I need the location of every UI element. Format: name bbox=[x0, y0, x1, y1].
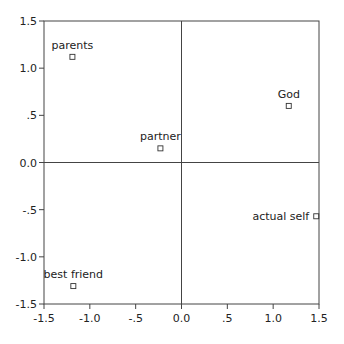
y-tick-label: 0.0 bbox=[20, 157, 38, 170]
point-label: God bbox=[278, 88, 300, 101]
data-point: best friend bbox=[44, 268, 103, 289]
square-marker-icon bbox=[286, 103, 291, 108]
x-axis: -1.5-1.0-.50.0.51.01.5 bbox=[33, 304, 327, 325]
y-tick-label: -1.5 bbox=[16, 298, 37, 311]
x-tick-label: 0.0 bbox=[173, 312, 191, 325]
x-tick-label: -1.5 bbox=[33, 312, 54, 325]
point-label: parents bbox=[52, 39, 94, 52]
point-label: actual self bbox=[252, 210, 310, 223]
y-tick-label: .5 bbox=[27, 109, 38, 122]
scatter-chart: -1.5-1.0-.50.0.51.01.5 1.51.0.50.0-.5-1.… bbox=[0, 0, 344, 344]
data-point: parents bbox=[52, 39, 94, 60]
point-label: best friend bbox=[44, 268, 103, 281]
x-tick-label: 1.5 bbox=[310, 312, 328, 325]
x-tick-label: .5 bbox=[222, 312, 233, 325]
point-label: partner bbox=[140, 130, 181, 143]
square-marker-icon bbox=[158, 146, 163, 151]
y-tick-label: -.5 bbox=[23, 204, 37, 217]
x-tick-label: 1.0 bbox=[264, 312, 282, 325]
y-tick-label: 1.0 bbox=[20, 62, 38, 75]
data-point: actual self bbox=[252, 210, 318, 223]
y-axis: 1.51.0.50.0-.5-1.0-1.5 bbox=[16, 15, 44, 311]
x-tick-label: -.5 bbox=[128, 312, 142, 325]
data-point: partner bbox=[140, 130, 181, 151]
data-point: God bbox=[278, 88, 300, 109]
x-tick-label: -1.0 bbox=[79, 312, 100, 325]
square-marker-icon bbox=[70, 54, 75, 59]
y-tick-label: -1.0 bbox=[16, 251, 37, 264]
square-marker-icon bbox=[71, 284, 76, 289]
reference-lines bbox=[44, 21, 319, 304]
square-marker-icon bbox=[314, 214, 319, 219]
y-tick-label: 1.5 bbox=[20, 15, 38, 28]
